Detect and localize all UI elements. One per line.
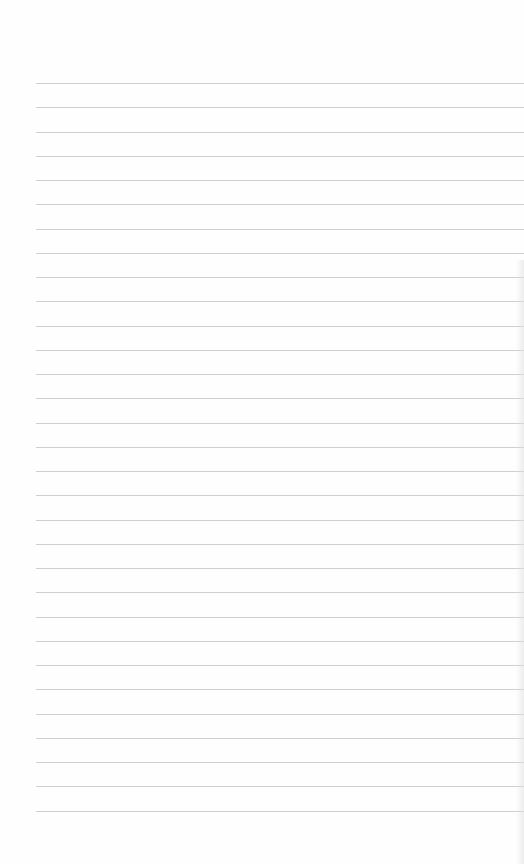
ruled-line	[36, 447, 524, 448]
ruled-line	[36, 592, 524, 593]
ruled-line	[36, 811, 524, 812]
ruled-line	[36, 350, 524, 351]
ruled-line	[36, 495, 524, 496]
ruled-line	[36, 204, 524, 205]
ruled-line	[36, 253, 524, 254]
ruled-line	[36, 374, 524, 375]
ruled-line	[36, 762, 524, 763]
ruled-line	[36, 786, 524, 787]
ruled-line	[36, 107, 524, 108]
ruled-line	[36, 738, 524, 739]
ruled-line	[36, 617, 524, 618]
ruled-line	[36, 714, 524, 715]
ruled-line	[36, 520, 524, 521]
page-edge-shadow	[516, 260, 524, 864]
ruled-line	[36, 665, 524, 666]
ruled-line	[36, 326, 524, 327]
ruled-line	[36, 180, 524, 181]
ruled-line	[36, 471, 524, 472]
ruled-line	[36, 423, 524, 424]
ruled-line	[36, 398, 524, 399]
ruled-line	[36, 544, 524, 545]
ruled-line	[36, 301, 524, 302]
ruled-line	[36, 689, 524, 690]
ruled-line	[36, 156, 524, 157]
ruled-line	[36, 132, 524, 133]
ruled-line	[36, 229, 524, 230]
ruled-line	[36, 83, 524, 84]
ruled-line	[36, 641, 524, 642]
lined-paper-sheet	[0, 0, 524, 864]
ruled-line	[36, 568, 524, 569]
ruled-line	[36, 277, 524, 278]
